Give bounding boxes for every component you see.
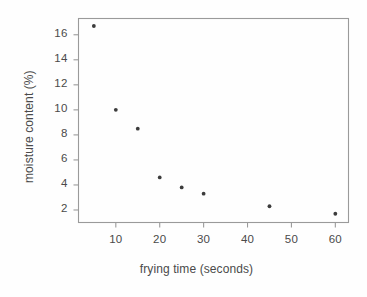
plot-frame: [79, 19, 349, 223]
y-tick-label: 2: [32, 202, 68, 214]
data-point-marker: [136, 127, 140, 131]
y-tick-label: 12: [32, 77, 68, 89]
x-tick-label: 50: [271, 233, 311, 245]
x-axis-title: frying time (seconds): [0, 262, 367, 276]
data-point-marker: [202, 192, 206, 196]
x-tick-label: 60: [315, 233, 355, 245]
x-tick-label: 40: [228, 233, 268, 245]
scatter-chart-figure: 246810121416 102030405060 moisture conte…: [0, 0, 367, 297]
data-point-marker: [268, 204, 272, 208]
data-point-marker: [158, 176, 162, 180]
y-tick-label: 16: [32, 27, 68, 39]
y-tick-label: 8: [32, 127, 68, 139]
axis-ticks: [74, 35, 336, 228]
y-axis-title: moisture content (%): [22, 70, 36, 183]
data-point-marker: [92, 24, 96, 28]
plot-border: [79, 19, 349, 223]
data-point-marker: [114, 108, 118, 112]
plot-area-svg: [0, 0, 367, 297]
data-points: [92, 24, 337, 216]
y-tick-label: 6: [32, 152, 68, 164]
data-point-marker: [333, 212, 337, 216]
data-point-marker: [180, 186, 184, 190]
y-tick-label: 10: [32, 102, 68, 114]
x-tick-label: 30: [184, 233, 224, 245]
y-tick-label: 4: [32, 177, 68, 189]
x-tick-label: 20: [140, 233, 180, 245]
y-tick-label: 14: [32, 52, 68, 64]
x-tick-label: 10: [96, 233, 136, 245]
